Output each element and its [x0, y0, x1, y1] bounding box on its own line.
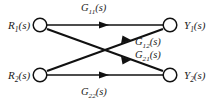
signal-flow-diagram: R1(s) R2(s) Y1(s) Y2(s) G11(s) G12(s) G2…: [0, 0, 213, 103]
arrowhead-g22: [99, 72, 109, 79]
edge-label-g11: G11(s): [81, 3, 106, 16]
node-r2[interactable]: [33, 68, 47, 82]
node-label-r2: R2(s): [8, 70, 30, 84]
edge-label-g21: G21(s): [135, 50, 161, 63]
edge-label-g22: G22(s): [81, 87, 107, 100]
node-label-r1: R1(s): [8, 20, 30, 34]
node-y2[interactable]: [163, 68, 177, 82]
arrowhead-g11: [99, 22, 109, 29]
node-r1[interactable]: [33, 18, 47, 32]
node-y1[interactable]: [163, 18, 177, 32]
node-label-y1: Y1(s): [184, 20, 205, 34]
node-label-y2: Y2(s): [184, 70, 205, 84]
